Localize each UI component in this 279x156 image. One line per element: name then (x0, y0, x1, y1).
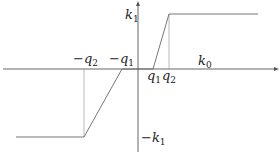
label-neg-q1: −q1 (109, 51, 134, 68)
label-k0: k0 (198, 53, 212, 70)
label-q1: q1 (147, 68, 161, 85)
x-axis-arrow-icon (274, 67, 279, 71)
label-neg-q2: −q2 (73, 51, 98, 68)
function-curve (16, 14, 258, 137)
y-axis-arrow-icon (136, 1, 140, 6)
label-neg-k1: −k1 (141, 130, 166, 147)
label-q2: q2 (162, 68, 176, 85)
label-k1: k1 (125, 7, 139, 24)
saturation-diagram: k1 −k1 k0 −q2 −q1 q1 q2 (0, 0, 279, 156)
